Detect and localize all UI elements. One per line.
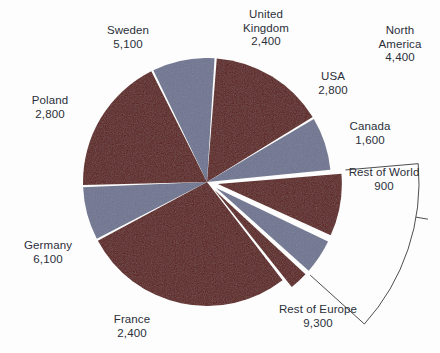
- pie-label-sweden-value: 5,100: [88, 38, 168, 52]
- pie-label-rest-of-world-name: Rest of World: [332, 166, 436, 180]
- pie-label-usa: USA 2,800: [305, 70, 361, 97]
- pie-label-rest-of-europe: Rest of Europe 9,300: [262, 303, 374, 330]
- pie-label-united-kingdom-name-line2: Kingdom: [228, 22, 304, 36]
- pie-label-rest-of-world: Rest of World 900: [332, 166, 436, 193]
- pie-label-canada: Canada 1,600: [338, 120, 402, 147]
- pie-label-rest-of-europe-value: 9,300: [262, 317, 374, 331]
- pie-label-north-america-value: 4,400: [364, 51, 436, 65]
- pie-label-usa-value: 2,800: [305, 84, 361, 98]
- pie-label-poland-value: 2,800: [8, 108, 92, 122]
- pie-label-usa-name: USA: [305, 70, 361, 84]
- pie-label-poland: Poland 2,800: [8, 94, 92, 121]
- pie-label-sweden-name: Sweden: [88, 24, 168, 38]
- pie-label-north-america-name-line1: North: [364, 24, 436, 38]
- pie-label-germany-name: Germany: [2, 239, 94, 253]
- pie-label-rest-of-world-value: 900: [332, 180, 436, 194]
- pie-label-united-kingdom: United Kingdom 2,400: [228, 8, 304, 49]
- pie-label-united-kingdom-value: 2,400: [228, 35, 304, 49]
- pie-label-france: France 2,400: [96, 313, 168, 340]
- pie-label-poland-name: Poland: [8, 94, 92, 108]
- pie-label-france-name: France: [96, 313, 168, 327]
- pie-label-sweden: Sweden 5,100: [88, 24, 168, 51]
- pie-chart-figure: Sweden 5,100 United Kingdom 2,400 North …: [0, 0, 440, 353]
- pie-label-france-value: 2,400: [96, 327, 168, 341]
- pie-label-germany-value: 6,100: [2, 253, 94, 267]
- pie-label-canada-name: Canada: [338, 120, 402, 134]
- pie-label-rest-of-europe-name: Rest of Europe: [262, 303, 374, 317]
- pie-label-united-kingdom-name-line1: United: [228, 8, 304, 22]
- north-america-leader-tick: [416, 217, 428, 219]
- pie-label-north-america-name-line2: America: [364, 38, 436, 52]
- pie-label-canada-value: 1,600: [338, 134, 402, 148]
- pie-label-north-america: North America 4,400: [364, 24, 436, 65]
- pie-slices-group: [83, 58, 342, 306]
- pie-label-germany: Germany 6,100: [2, 239, 94, 266]
